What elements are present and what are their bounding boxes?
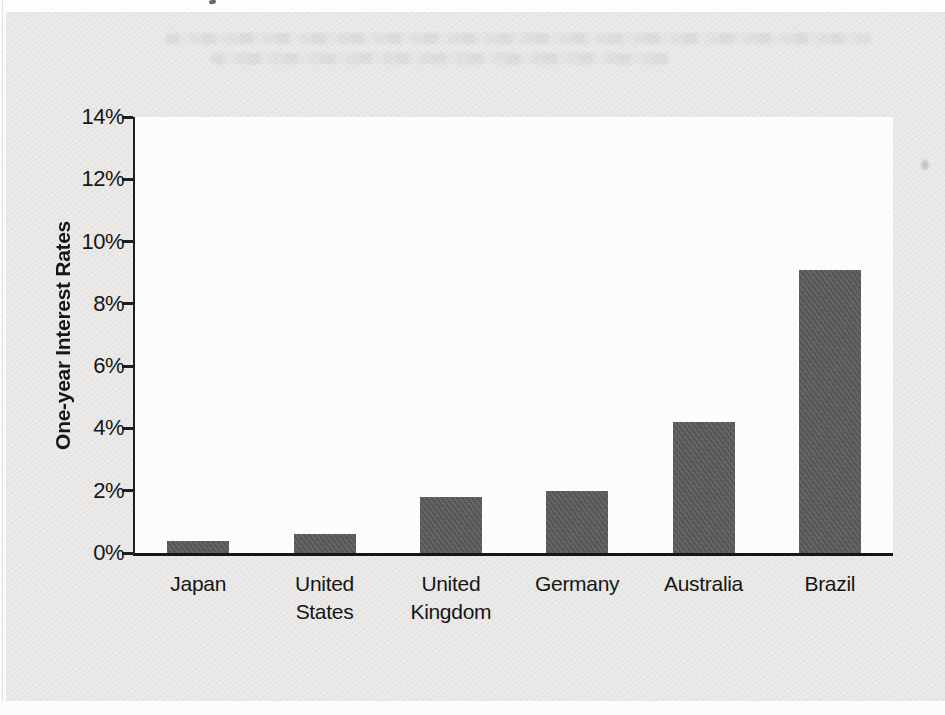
scan-speck-top [209, 0, 216, 4]
y-tick-label: 4% [66, 415, 124, 441]
bar-united-kingdom [420, 497, 482, 553]
y-tick-label: 2% [66, 478, 124, 504]
bleed-through-text-line [166, 33, 871, 44]
page-bottom-margin [0, 701, 945, 715]
y-tick-label: 8% [66, 291, 124, 317]
y-tick-label: 14% [66, 104, 124, 130]
y-tick-label: 0% [66, 540, 124, 566]
x-tick-label-brazil: Brazil [755, 570, 905, 598]
scanned-textbook-page: { "page": { "panel_background": "#e8e7e5… [0, 0, 945, 715]
y-tick-label: 6% [66, 353, 124, 379]
y-tick-label: 12% [66, 166, 124, 192]
y-tick-label: 10% [66, 229, 124, 255]
bar-australia [673, 422, 735, 553]
page-edge-line [2, 0, 3, 715]
bar-united-states [294, 534, 356, 553]
bar-japan [167, 541, 229, 553]
figure-panel: One-year Interest Rates 0%2%4%6%8%10%12%… [6, 12, 945, 701]
bar-brazil [799, 270, 861, 553]
scan-speck-right [921, 160, 929, 170]
plot-area: 0%2%4%6%8%10%12%14%JapanUnited StatesUni… [133, 117, 893, 556]
bar-germany [546, 491, 608, 553]
bleed-through-text-line [211, 53, 671, 64]
